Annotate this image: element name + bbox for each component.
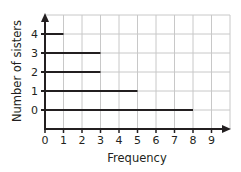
x-tick-label: 3 (97, 134, 104, 147)
y-tick-label: 1 (31, 85, 38, 98)
x-tick-label: 7 (171, 134, 178, 147)
x-tick-label: 8 (190, 134, 197, 147)
y-tick-label: 0 (31, 104, 38, 117)
y-axis-arrow-icon (41, 13, 49, 22)
x-tick-label: 2 (79, 134, 86, 147)
y-axis-title: Number of sisters (10, 20, 24, 122)
y-tick-label: 3 (31, 47, 38, 60)
x-tick-label: 4 (116, 134, 123, 147)
bar-chart: 012345678901234 Frequency Number of sist… (0, 0, 241, 172)
y-tick-label: 2 (31, 66, 38, 79)
x-tick-label: 0 (42, 134, 49, 147)
x-tick-label: 9 (208, 134, 215, 147)
x-tick-label: 5 (134, 134, 141, 147)
x-tick-label: 6 (153, 134, 160, 147)
y-tick-label: 4 (31, 28, 38, 41)
x-tick-label: 1 (60, 134, 67, 147)
x-axis-title: Frequency (107, 151, 167, 165)
